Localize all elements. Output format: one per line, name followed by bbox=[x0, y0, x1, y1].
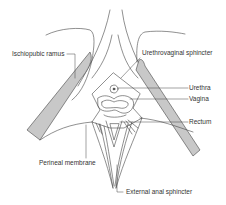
diagram-artwork bbox=[0, 0, 226, 205]
perineum-diagram: Ischiopubic ramus Urethrovaginal sphinct… bbox=[0, 0, 226, 205]
right-ischiopubic-ramus bbox=[136, 59, 200, 156]
label-urethra: Urethra bbox=[189, 85, 211, 92]
label-external-anal-sphincter: External anal sphincter bbox=[126, 189, 192, 196]
external-anal-sphincter bbox=[92, 122, 113, 188]
left-ischiopubic-ramus bbox=[27, 52, 91, 140]
right-skin-outline bbox=[137, 31, 185, 62]
label-urethrovaginal-sphincter: Urethrovaginal sphincter bbox=[142, 50, 212, 57]
label-vagina: Vagina bbox=[189, 96, 209, 103]
right-inner-curve bbox=[118, 35, 138, 78]
label-rectum: Rectum bbox=[189, 119, 211, 126]
label-ischiopubic-ramus: Ischiopubic ramus bbox=[12, 51, 64, 58]
left-inner-curve bbox=[92, 35, 112, 78]
label-perineal-membrane: Perineal membrane bbox=[39, 160, 96, 167]
perineal-body-outline bbox=[92, 73, 142, 128]
